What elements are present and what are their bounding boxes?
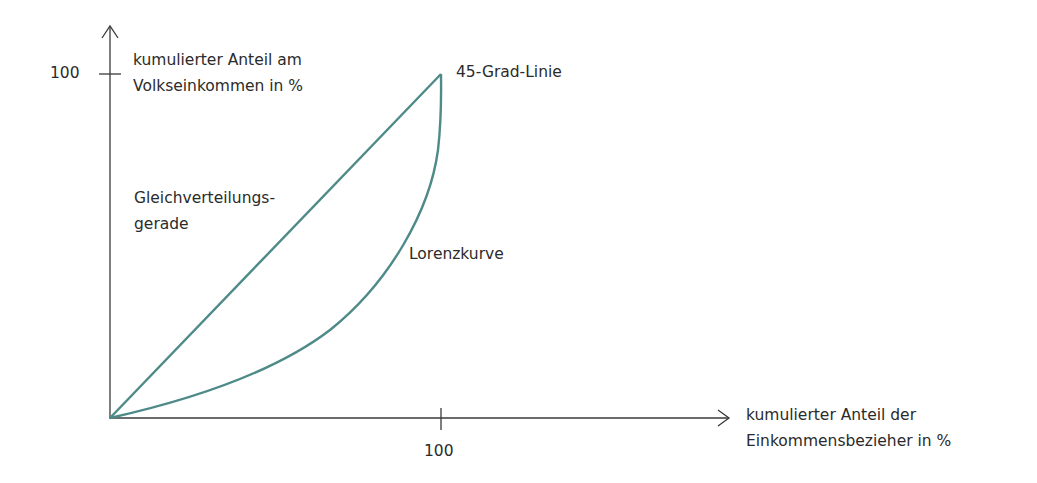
equal-distribution-line (110, 74, 441, 418)
diagonal-end-label: 45-Grad-Linie (456, 62, 562, 83)
equal-line-label-1: Gleichverteilungs- (134, 188, 275, 209)
y-tick-label: 100 (50, 63, 80, 84)
y-axis-label-line2: Volkseinkommen in % (133, 76, 303, 97)
equal-line-label-2: gerade (134, 214, 189, 235)
x-axis-label-line1: kumulierter Anteil der (746, 405, 916, 426)
x-axis-label-line2: Einkommensbezieher in % (746, 431, 951, 452)
x-tick-label: 100 (424, 441, 454, 462)
y-axis-label-line1: kumulierter Anteil am (133, 50, 302, 71)
lorenz-label: Lorenzkurve (409, 244, 504, 265)
